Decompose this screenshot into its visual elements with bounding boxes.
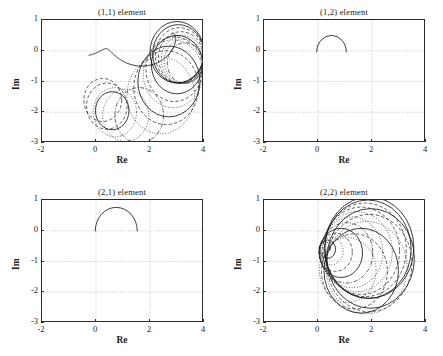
x-tick-label: 2 [361,324,381,334]
y-axis-label: Im [233,258,243,270]
y-tick-label: -2 [242,285,260,295]
x-tick-mark [371,319,372,322]
x-tick-label: 0 [307,324,327,334]
y-tick-label: -3 [242,316,260,326]
y-tick-label: 1 [242,193,260,203]
y-tick-label: 0 [242,224,260,234]
y-tick-mark [263,199,266,200]
y-tick-mark [263,291,266,292]
panel-title-p22: (2,2) element [263,187,425,197]
y-tick-mark [263,230,266,231]
y-tick-mark [263,322,266,323]
x-tick-mark [317,319,318,322]
y-tick-mark [263,261,266,262]
plot-area-p22 [263,199,425,322]
locus-curve [319,237,343,265]
y-tick-label: -1 [242,255,260,265]
x-tick-label: 4 [415,324,435,334]
plot-canvas-p22 [264,200,425,322]
data-series-p22 [319,200,415,314]
nyquist-figure: (1,1) element-202410-1-2-3ReIm(1,2) elem… [0,0,443,356]
x-tick-mark [425,319,426,322]
plot-panel-p22: (2,2) element-202410-1-2-3ReIm [0,0,443,356]
x-axis-label: Re [263,335,425,345]
